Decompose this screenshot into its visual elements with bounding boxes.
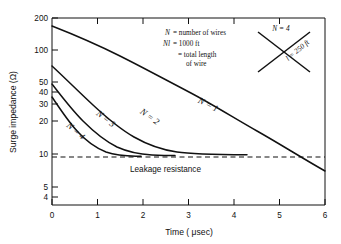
chart-figure: 200 100 50 40 30 20 10 5 4 0 1 2 3 4 5 6…	[0, 0, 341, 244]
diagram-label-n4: N = 4	[271, 24, 290, 33]
ytick-label-40: 40	[39, 88, 49, 97]
ytick-label-100: 100	[34, 46, 48, 55]
xtick-label-0: 0	[50, 211, 55, 220]
note-text-of-wire: of wire	[186, 60, 207, 68]
xtick-label-1: 1	[95, 211, 100, 220]
xtick-label-3: 3	[186, 211, 191, 220]
note-symbol-nl: Nl	[162, 39, 170, 48]
xtick-label-6: 6	[323, 211, 328, 220]
xtick-label-5: 5	[277, 211, 282, 220]
xtick-label-2: 2	[141, 211, 146, 220]
surge-impedance-chart: 200 100 50 40 30 20 10 5 4 0 1 2 3 4 5 6…	[0, 0, 341, 244]
ytick-label-10: 10	[39, 150, 49, 159]
note-text-1000ft: = 1000 ft	[173, 40, 199, 48]
ytick-label-200: 200	[34, 14, 48, 23]
note-text-number-of-wires: = number of wires	[173, 29, 226, 37]
ytick-label-20: 20	[39, 117, 49, 126]
ytick-label-30: 30	[39, 100, 49, 109]
leakage-resistance-label: Leakage resistance	[130, 165, 201, 174]
ytick-label-50: 50	[39, 78, 49, 87]
ytick-label-4: 4	[43, 193, 48, 202]
xtick-label-4: 4	[232, 211, 237, 220]
y-axis-title: Surge impedance (Ω)	[8, 71, 18, 153]
note-text-total-length: = total length	[178, 51, 217, 59]
ytick-label-5: 5	[43, 183, 48, 192]
x-axis-title: Time ( μsec)	[165, 227, 213, 237]
chart-background	[0, 0, 341, 244]
